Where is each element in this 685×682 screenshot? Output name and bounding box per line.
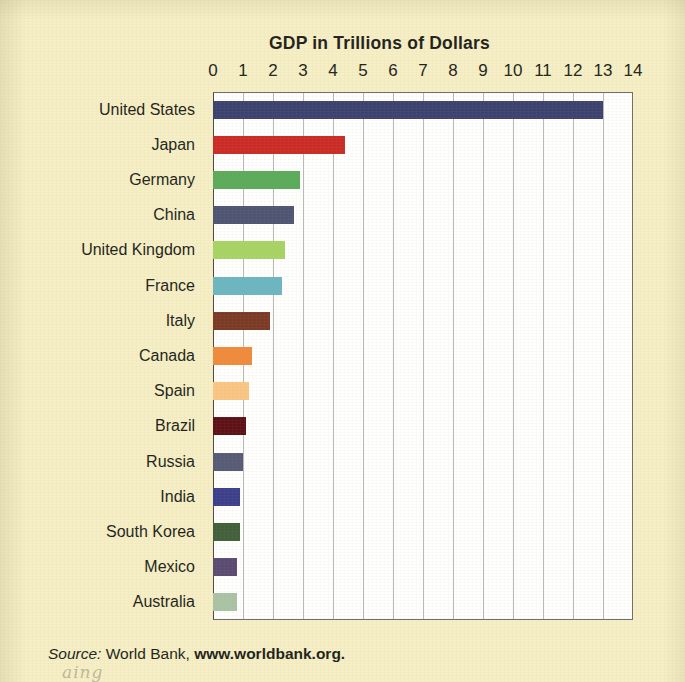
category-label-spain: Spain (154, 382, 195, 400)
bar-india (213, 488, 240, 506)
bars-layer (213, 92, 633, 620)
category-label-germany: Germany (129, 171, 195, 189)
x-tick-label-14: 14 (624, 61, 643, 81)
x-axis-tick-labels: 01234567891011121314 (0, 61, 685, 85)
x-tick-label-6: 6 (388, 61, 397, 81)
x-tick-label-8: 8 (448, 61, 457, 81)
category-label-canada: Canada (139, 347, 195, 365)
x-tick-label-12: 12 (564, 61, 583, 81)
category-label-china: China (153, 206, 195, 224)
x-tick-label-5: 5 (358, 61, 367, 81)
x-tick-label-9: 9 (478, 61, 487, 81)
source-url: www.worldbank.org. (194, 645, 345, 662)
x-tick-label-13: 13 (594, 61, 613, 81)
category-label-france: France (145, 277, 195, 295)
bar-united-states (213, 101, 603, 119)
bar-japan (213, 136, 345, 154)
x-tick-label-0: 0 (208, 61, 217, 81)
bar-australia (213, 593, 237, 611)
x-tick-label-1: 1 (238, 61, 247, 81)
source-note: Source: World Bank, www.worldbank.org. (48, 645, 345, 663)
category-label-united-states: United States (99, 101, 195, 119)
category-label-japan: Japan (151, 136, 195, 154)
bar-italy (213, 312, 270, 330)
chart-title: GDP in Trillions of Dollars (0, 33, 685, 54)
category-label-australia: Australia (133, 593, 195, 611)
bar-germany (213, 171, 300, 189)
scan-artifact-handwriting: aing (62, 662, 103, 682)
bar-mexico (213, 558, 237, 576)
category-label-mexico: Mexico (144, 558, 195, 576)
category-label-india: India (160, 488, 195, 506)
source-label: Source: (48, 645, 101, 662)
category-label-italy: Italy (166, 312, 195, 330)
bar-south-korea (213, 523, 240, 541)
category-label-russia: Russia (146, 453, 195, 471)
x-tick-label-3: 3 (298, 61, 307, 81)
bar-china (213, 206, 294, 224)
category-label-south-korea: South Korea (106, 523, 195, 541)
x-tick-label-10: 10 (504, 61, 523, 81)
bar-spain (213, 382, 249, 400)
bar-france (213, 277, 282, 295)
category-labels: United StatesJapanGermanyChinaUnited Kin… (0, 92, 205, 620)
category-label-united-kingdom: United Kingdom (81, 241, 195, 259)
bar-russia (213, 453, 243, 471)
category-label-brazil: Brazil (155, 417, 195, 435)
bar-united-kingdom (213, 241, 285, 259)
x-tick-label-4: 4 (328, 61, 337, 81)
x-tick-label-7: 7 (418, 61, 427, 81)
source-publisher: World Bank, (101, 645, 194, 662)
x-tick-label-2: 2 (268, 61, 277, 81)
bar-brazil (213, 417, 246, 435)
bar-canada (213, 347, 252, 365)
x-tick-label-11: 11 (534, 61, 552, 81)
